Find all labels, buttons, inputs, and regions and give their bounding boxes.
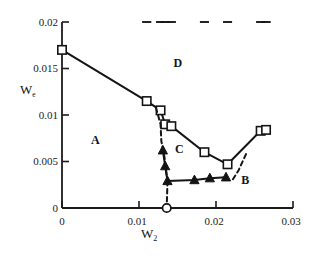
y-axis-title-main: W: [20, 82, 32, 97]
ytick-label-2: 0.01: [10, 109, 58, 121]
region-label-a: A: [91, 133, 100, 148]
series-upper-boundary-squares: [58, 22, 271, 168]
region-label-b: B: [241, 173, 249, 188]
marker-upper-boundary-squares-8: [262, 126, 270, 134]
series-axis-critical-point: [163, 204, 171, 212]
region-label-d: D: [174, 56, 183, 71]
data-series: [58, 22, 271, 212]
marker-upper-boundary-squares-0: [58, 46, 66, 54]
marker-upper-boundary-squares-5: [200, 148, 208, 156]
marker-upper-boundary-squares-6: [223, 160, 231, 168]
phase-diagram-chart: 0 0.005 0.01 0.015 0.02 0 0.01 0.02 0.03…: [0, 0, 316, 258]
ytick-label-0: 0: [10, 202, 58, 214]
y-axis-title-subscript: e: [32, 90, 35, 99]
xtick-label-3: 0.03: [275, 215, 307, 227]
marker-axis-critical-point-0: [163, 204, 171, 212]
x-axis-title-main: W: [141, 226, 153, 241]
xtick-label-0: 0: [46, 215, 78, 227]
y-axis-title: We: [20, 82, 36, 98]
series-lower-boundary-triangles: [158, 145, 230, 184]
ytick-label-3: 0.015: [10, 62, 58, 74]
ytick-label-1: 0.005: [10, 155, 58, 167]
x-axis-title: W2: [141, 226, 157, 242]
marker-upper-boundary-squares-4: [167, 122, 175, 130]
marker-upper-boundary-squares-1: [143, 97, 151, 105]
region-label-c: C: [175, 142, 184, 157]
ytick-label-4: 0.02: [10, 16, 58, 28]
x-axis-title-subscript: 2: [153, 234, 157, 243]
xtick-label-2: 0.02: [198, 215, 230, 227]
